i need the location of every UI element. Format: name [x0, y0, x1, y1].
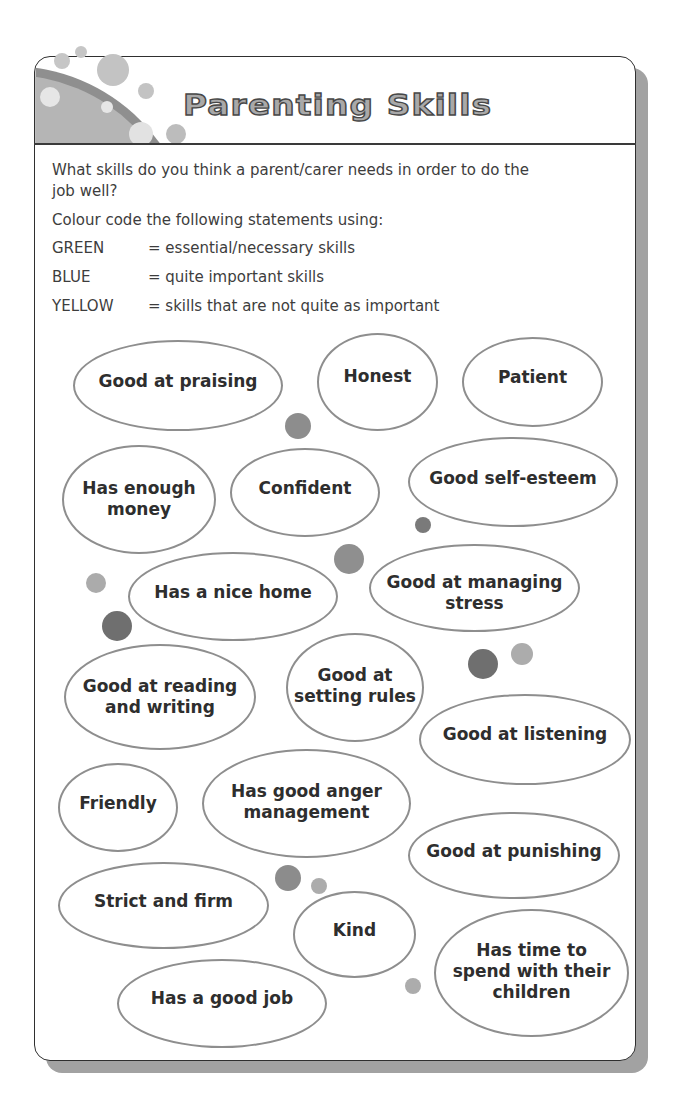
skill-bubble-confident: Confident — [230, 448, 380, 537]
skill-text: money — [82, 499, 195, 520]
skill-text: Confident — [259, 478, 352, 499]
skill-text: and writing — [83, 697, 238, 718]
header-divider — [34, 143, 636, 145]
skill-text: Kind — [333, 920, 376, 941]
skill-text: Good self-esteem — [429, 468, 597, 489]
decorative-dot — [405, 978, 421, 994]
legend-meaning-blue: = quite important skills — [148, 267, 324, 287]
skill-text: Honest — [344, 366, 412, 387]
skill-text: Has enough — [82, 478, 195, 499]
skill-text: children — [453, 982, 611, 1003]
skill-text: stress — [387, 593, 563, 614]
skill-text: Good at reading — [83, 676, 238, 697]
page-title: Parenting Skills — [183, 90, 492, 122]
decorative-dot — [275, 865, 301, 891]
decorative-dot — [285, 413, 311, 439]
skill-bubble-kind: Kind — [293, 891, 416, 978]
skill-text: Good at — [294, 665, 416, 686]
decorative-dot — [415, 517, 431, 533]
skill-bubble-good-at-reading-and-writing: Good at reading and writing — [64, 644, 256, 750]
skill-text: Good at praising — [99, 371, 258, 392]
skill-bubble-has-enough-money: Has enough money — [62, 445, 216, 554]
skill-text: Has good anger — [231, 781, 382, 802]
skill-bubble-has-time-to-spend-with-their-children: Has time to spend with their children — [434, 909, 629, 1037]
skill-text: Has time to — [453, 940, 611, 961]
skill-text: Patient — [498, 367, 567, 388]
skill-text: management — [231, 802, 382, 823]
question-line-2: job well? — [52, 181, 117, 201]
legend-meaning-green: = essential/necessary skills — [148, 238, 355, 258]
skill-text: setting rules — [294, 686, 416, 707]
skill-text: Good at punishing — [426, 841, 601, 862]
skill-bubble-patient: Patient — [462, 337, 603, 427]
skill-bubble-good-at-punishing: Good at punishing — [408, 812, 620, 899]
skill-bubble-has-good-anger-management: Has good anger management — [202, 749, 411, 858]
skill-text: Has a nice home — [154, 582, 312, 603]
instruction-text: Colour code the following statements usi… — [52, 210, 383, 230]
skill-text: Good at listening — [443, 724, 608, 745]
skill-text: spend with their — [453, 961, 611, 982]
skill-bubble-good-at-praising: Good at praising — [73, 340, 283, 431]
skill-text: Friendly — [79, 793, 156, 814]
decorative-dot — [468, 649, 498, 679]
legend-label-blue: BLUE — [52, 267, 90, 287]
skill-text: Strict and firm — [94, 891, 233, 912]
legend-meaning-yellow: = skills that are not quite as important — [148, 296, 439, 316]
skill-bubble-good-at-setting-rules: Good at setting rules — [286, 633, 424, 742]
skill-text: Good at managing — [387, 572, 563, 593]
skill-bubble-friendly: Friendly — [58, 763, 178, 852]
skill-bubble-honest: Honest — [317, 333, 438, 431]
decorative-dot — [511, 643, 533, 665]
question-line-1: What skills do you think a parent/carer … — [52, 160, 529, 180]
skill-bubble-has-a-nice-home: Has a nice home — [128, 552, 338, 641]
skill-bubble-good-self-esteem: Good self-esteem — [408, 437, 618, 527]
skill-bubble-strict-and-firm: Strict and firm — [58, 862, 269, 949]
decorative-dot — [86, 573, 106, 593]
legend-label-yellow: YELLOW — [52, 296, 113, 316]
skill-text: Has a good job — [151, 988, 293, 1009]
decorative-dot — [334, 544, 364, 574]
legend-label-green: GREEN — [52, 238, 104, 258]
decorative-dot — [102, 611, 132, 641]
decorative-dot — [311, 878, 327, 894]
skill-bubble-good-at-managing-stress: Good at managing stress — [369, 544, 580, 632]
skill-bubble-good-at-listening: Good at listening — [419, 694, 631, 785]
skill-bubble-has-a-good-job: Has a good job — [117, 959, 327, 1048]
